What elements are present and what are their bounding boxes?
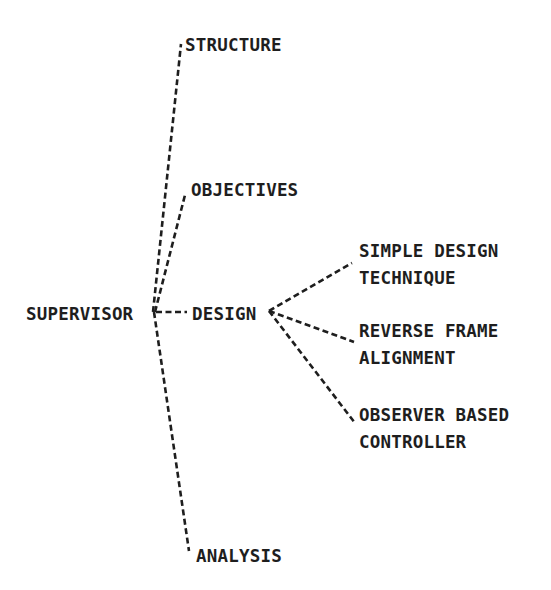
node-structure: STRUCTURE: [185, 35, 282, 55]
node-analysis: ANALYSIS: [196, 546, 282, 566]
node-design: DESIGN: [192, 304, 256, 324]
edge-supervisor-structure: [153, 44, 181, 312]
tree-diagram: SUPERVISOR STRUCTURE OBJECTIVES DESIGN S…: [0, 0, 551, 590]
node-simple-design-technique-line1: SIMPLE DESIGN: [359, 241, 499, 261]
node-observer-based-controller-line2: CONTROLLER: [359, 432, 467, 452]
edge-design-simple-design-technique: [269, 263, 352, 311]
edge-supervisor-analysis: [154, 312, 189, 551]
edge-design-observer-based-controller: [269, 311, 355, 423]
node-observer-based-controller-line1: OBSERVER BASED: [359, 405, 509, 425]
node-objectives: OBJECTIVES: [191, 180, 298, 200]
node-supervisor: SUPERVISOR: [26, 304, 134, 324]
node-simple-design-technique-line2: TECHNIQUE: [359, 268, 456, 288]
node-reverse-frame-alignment-line1: REVERSE FRAME: [359, 321, 499, 341]
node-reverse-frame-alignment-line2: ALIGNMENT: [359, 348, 456, 368]
